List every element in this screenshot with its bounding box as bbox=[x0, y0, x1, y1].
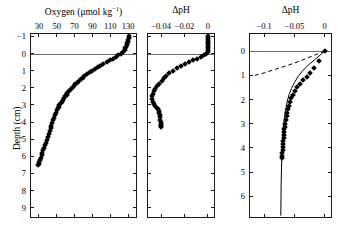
figure-canvas: Oxygen (μmol kg−1)30507090110130−1012345… bbox=[0, 0, 338, 233]
